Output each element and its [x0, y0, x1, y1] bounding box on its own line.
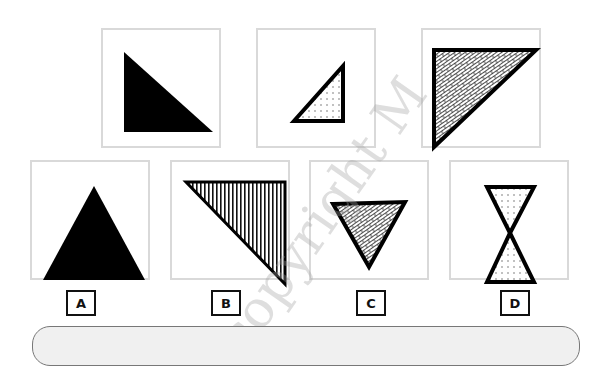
option-label-c[interactable]: C	[356, 290, 386, 316]
solid-equilateral-triangle-icon	[32, 162, 152, 282]
problem-figure-1	[101, 28, 221, 148]
dotted-right-triangle-icon	[258, 30, 378, 150]
dotted-hourglass-icon	[451, 162, 571, 292]
answer-figure-d[interactable]	[449, 160, 569, 280]
explanation-panel	[32, 326, 580, 366]
option-label-d[interactable]: D	[500, 290, 530, 316]
brick-right-triangle-icon	[423, 30, 543, 150]
option-label-b[interactable]: B	[211, 290, 241, 316]
problem-figure-3	[421, 28, 541, 148]
brick-inverted-triangle-icon	[311, 162, 431, 282]
answer-figure-c[interactable]	[309, 160, 429, 280]
answer-figure-a[interactable]	[30, 160, 150, 280]
striped-right-triangle-icon	[172, 162, 312, 302]
solid-right-triangle-icon	[103, 30, 223, 150]
problem-figure-2	[256, 28, 376, 148]
option-label-a[interactable]: A	[66, 290, 96, 316]
answer-figure-b[interactable]	[170, 160, 290, 280]
